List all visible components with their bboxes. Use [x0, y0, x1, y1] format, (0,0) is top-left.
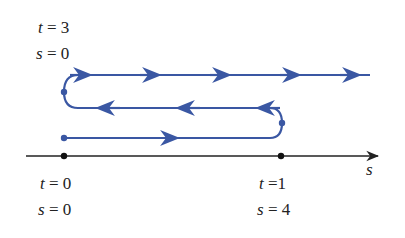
turn-point-left: [61, 89, 67, 95]
axis-point-s4: [278, 153, 284, 159]
label-top-s: s = 0: [36, 44, 69, 64]
label-left-t: t = 0: [40, 174, 71, 194]
label-right-t: t =1: [259, 174, 286, 194]
turn-point-right: [279, 120, 285, 126]
label-right-s: s = 4: [257, 200, 290, 220]
trajectory-path: [64, 75, 370, 138]
axis-point-s0: [61, 153, 67, 159]
label-top-t: t = 3: [38, 18, 69, 38]
label-left-s: s = 0: [38, 200, 71, 220]
start-point: [61, 135, 67, 141]
axis-label: s: [366, 160, 373, 180]
